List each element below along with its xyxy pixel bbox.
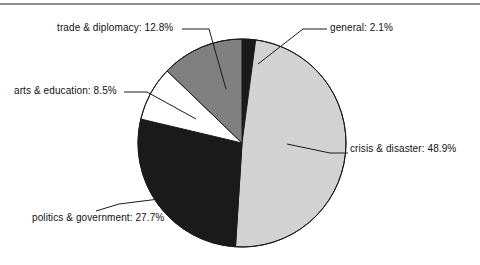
pie-label-arts-education: arts & education: 8.5% (14, 85, 117, 96)
pie-label-trade-diplomacy: trade & diplomacy: 12.8% (57, 22, 173, 33)
pie-chart-canvas (0, 0, 480, 265)
pie-label-politics-government: politics & government: 27.7% (32, 212, 164, 223)
pie-chart-figure: trade & diplomacy: 12.8% general: 2.1% a… (0, 0, 480, 265)
pie-label-general: general: 2.1% (330, 22, 393, 33)
pie-slice-crisis-disaster[interactable] (235, 40, 346, 247)
pie-label-crisis-disaster: crisis & disaster: 48.9% (350, 143, 456, 154)
